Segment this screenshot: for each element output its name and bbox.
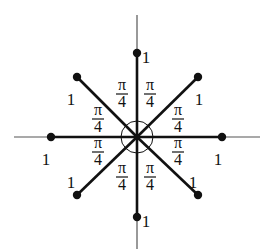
angle-label-pi-over-4: π4 — [116, 159, 128, 193]
svg-text:π: π — [94, 101, 102, 118]
length-label-right: 1 — [214, 150, 223, 169]
svg-text:4: 4 — [174, 118, 182, 135]
svg-text:π: π — [174, 101, 182, 118]
svg-text:4: 4 — [118, 93, 126, 110]
angle-label-pi-over-4: π4 — [144, 159, 156, 193]
angle-label-pi-over-4: π4 — [116, 76, 128, 110]
svg-text:4: 4 — [146, 93, 154, 110]
length-label-down: 1 — [142, 212, 151, 231]
vector-down-left — [77, 137, 137, 195]
endpoint-dot-up-left — [73, 73, 81, 81]
unit-vectors-diagram: 11111111 π4π4π4π4π4π4π4π4 — [0, 0, 269, 249]
vector-up-left — [77, 77, 137, 137]
svg-text:π: π — [146, 159, 154, 176]
origin-dot — [134, 134, 140, 140]
unit-vectors — [47, 49, 226, 221]
endpoint-dot-down-right — [194, 191, 202, 199]
endpoint-dot-down-left — [73, 191, 81, 199]
svg-text:π: π — [146, 76, 154, 93]
length-label-left: 1 — [42, 150, 51, 169]
length-label-up-right: 1 — [195, 90, 204, 109]
length-label-down-left: 1 — [67, 173, 76, 192]
endpoint-dot-right — [218, 133, 226, 141]
endpoint-dot-left — [47, 133, 55, 141]
svg-text:4: 4 — [94, 151, 102, 168]
endpoint-dot-up-right — [194, 73, 202, 81]
svg-text:4: 4 — [118, 176, 126, 193]
angle-label-pi-over-4: π4 — [92, 134, 104, 168]
length-label-down-right: 1 — [189, 173, 198, 192]
svg-text:4: 4 — [146, 176, 154, 193]
length-label-up-left: 1 — [67, 90, 76, 109]
endpoint-dot-up — [133, 49, 141, 57]
svg-text:π: π — [174, 134, 182, 151]
svg-text:π: π — [94, 134, 102, 151]
length-label-up: 1 — [142, 48, 151, 67]
svg-text:4: 4 — [94, 118, 102, 135]
svg-text:4: 4 — [174, 151, 182, 168]
svg-text:π: π — [118, 76, 126, 93]
svg-text:π: π — [118, 159, 126, 176]
endpoint-dot-down — [133, 213, 141, 221]
angle-label-pi-over-4: π4 — [144, 76, 156, 110]
angle-label-pi-over-4: π4 — [92, 101, 104, 135]
angle-label-pi-over-4: π4 — [172, 134, 184, 168]
angle-label-pi-over-4: π4 — [172, 101, 184, 135]
